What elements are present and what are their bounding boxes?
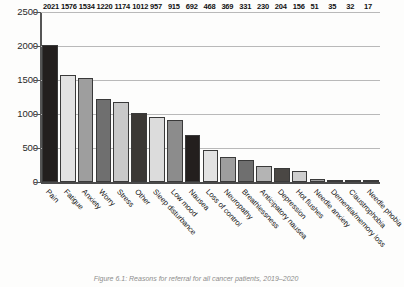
bar-slot: 331 (237, 12, 255, 182)
bar-slot: 32 (344, 12, 362, 182)
bar-value-label: 1220 (97, 3, 113, 11)
bar-value-label: 331 (239, 3, 251, 11)
y-tick-mark-500 (34, 148, 41, 149)
bar-value-label: 51 (311, 3, 319, 11)
bar: 32 (345, 180, 361, 182)
bar-slot: 230 (255, 12, 273, 182)
bar-value-label: 1534 (79, 3, 95, 11)
bar: 1174 (113, 102, 129, 182)
bar: 35 (327, 180, 343, 182)
bar: 369 (220, 157, 236, 182)
bar-slot: 17 (362, 12, 380, 182)
bar-value-label: 204 (275, 3, 287, 11)
bar: 1576 (60, 75, 76, 182)
plot-area: 2021157615341220117410129579156924683693… (41, 12, 380, 182)
x-label-slot: Needle anxiety (309, 186, 327, 266)
bar-value-label: 156 (293, 3, 305, 11)
bar-slot: 692 (184, 12, 202, 182)
y-tick-label-500: 500 (4, 143, 38, 153)
x-label-slot: Stress (112, 186, 130, 266)
bar: 1534 (78, 78, 94, 182)
bar: 204 (274, 168, 290, 182)
bar-value-label: 1174 (114, 3, 129, 11)
y-tick-label-1000: 1000 (4, 109, 38, 119)
x-label-slot: Fatigue (59, 186, 77, 266)
y-tick-mark-0 (34, 182, 41, 183)
bar-value-label: 692 (186, 3, 198, 11)
bar: 692 (185, 135, 201, 182)
bar-slot: 1576 (59, 12, 77, 182)
bar-slot: 156 (291, 12, 309, 182)
bar-slot: 2021 (41, 12, 59, 182)
x-label-slot: Pain (41, 186, 59, 266)
bar: 156 (292, 171, 308, 182)
x-label-slot: Anticipatory nausea (255, 186, 273, 266)
bar-value-label: 35 (328, 3, 336, 11)
bar-slot: 35 (326, 12, 344, 182)
bar: 957 (149, 117, 165, 182)
y-tick-mark-2000 (34, 46, 41, 47)
x-label-slot: Claustrophobia (344, 186, 362, 266)
bar-value-label: 369 (221, 3, 233, 11)
bar-slot: 369 (219, 12, 237, 182)
bar-value-label: 468 (204, 3, 216, 11)
y-tick-mark-1000 (34, 114, 41, 115)
bar: 1012 (131, 113, 147, 182)
bar: 1220 (96, 99, 112, 182)
x-label-slot: Anxiety (77, 186, 95, 266)
bar: 17 (363, 180, 379, 182)
bar-series: 2021157615341220117410129579156924683693… (41, 12, 380, 182)
bar: 230 (256, 166, 272, 182)
bar-slot: 204 (273, 12, 291, 182)
x-label-slot: Neuropathy (219, 186, 237, 266)
bar-slot: 1012 (130, 12, 148, 182)
bar-value-label: 2021 (43, 3, 59, 11)
bar-value-label: 230 (257, 3, 269, 11)
bar: 915 (167, 120, 183, 182)
bar: 51 (310, 179, 326, 182)
bar: 468 (203, 150, 219, 182)
bar-value-label: 32 (346, 3, 354, 11)
gridline-0 (41, 182, 380, 183)
bar-value-label: 17 (364, 3, 372, 11)
bar: 331 (238, 160, 254, 183)
bar-slot: 1220 (94, 12, 112, 182)
x-tick-label: Pain (44, 188, 60, 204)
x-label-slot: Needle phobia (362, 186, 380, 266)
x-label-slot: Dementia/memory loss (326, 186, 344, 266)
x-label-slot: Low mood (166, 186, 184, 266)
y-tick-mark-1500 (34, 80, 41, 81)
bar-value-label: 915 (168, 3, 180, 11)
x-label-slot: Nausea (184, 186, 202, 266)
x-label-slot: Breathlessness (237, 186, 255, 266)
y-tick-label-0: 0 (4, 177, 38, 187)
x-label-slot: Hot flushes (291, 186, 309, 266)
bar-slot: 468 (201, 12, 219, 182)
y-tick-label-2500: 2500 (4, 7, 38, 17)
x-axis-category-labels: PainFatigueAnxietyWorryStressOtherSleep … (41, 186, 380, 266)
figure-caption: Figure 6.1: Reasons for referral for all… (0, 274, 392, 283)
bar-value-label: 957 (150, 3, 162, 11)
x-label-slot: Sleep disturbance (148, 186, 166, 266)
x-label-slot: Depression (273, 186, 291, 266)
bar-value-label: 1012 (132, 3, 148, 11)
bar-slot: 915 (166, 12, 184, 182)
y-axis-labels: 05001000150020002500 (0, 0, 38, 287)
x-label-slot: Other (130, 186, 148, 266)
y-tick-mark-2500 (34, 12, 41, 13)
bar-value-label: 1576 (61, 3, 77, 11)
x-label-slot: Worry (95, 186, 113, 266)
bar-slot: 51 (308, 12, 326, 182)
x-label-slot: Loss of control (202, 186, 220, 266)
bar-slot: 957 (148, 12, 166, 182)
bar: 2021 (42, 45, 58, 182)
y-tick-label-1500: 1500 (4, 75, 38, 85)
bar-slot: 1174 (112, 12, 130, 182)
y-tick-label-2000: 2000 (4, 41, 38, 51)
bar-slot: 1534 (77, 12, 95, 182)
